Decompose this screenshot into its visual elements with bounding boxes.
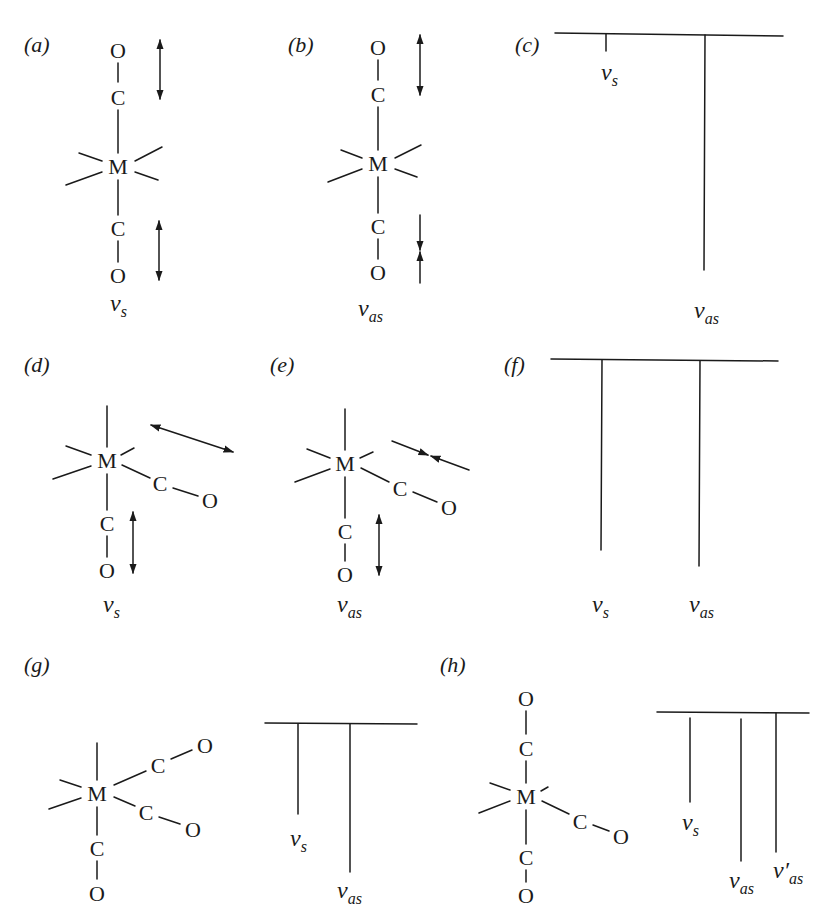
- atom-carbon: C: [519, 845, 534, 870]
- band-nu-as: [704, 35, 705, 270]
- mode-label-nu-as: νas: [337, 591, 362, 621]
- band-nu-as: [699, 361, 700, 566]
- atom-oxygen: O: [337, 562, 353, 587]
- mode-label-nu-s: νs: [103, 591, 120, 621]
- bond-co: [593, 825, 609, 831]
- arrow-converging-icon: [431, 456, 469, 470]
- panel-b: (b) O C M C O νas: [288, 32, 421, 325]
- band-label-nu-s: νs: [592, 591, 609, 621]
- atom-carbon: C: [111, 85, 126, 110]
- atom-oxygen: O: [370, 260, 386, 285]
- bond-ligand: [135, 172, 158, 180]
- bond-ligand: [79, 153, 102, 161]
- atom-metal: M: [87, 781, 107, 806]
- panel-label-f: (f): [504, 352, 525, 377]
- panel-g-spectrum: νs νas: [265, 723, 417, 907]
- band-label-nu-s: νs: [601, 59, 618, 89]
- atom-carbon: C: [371, 82, 386, 107]
- bond-mc: [122, 465, 150, 478]
- bond-mc: [114, 771, 146, 785]
- atom-metal: M: [335, 451, 355, 476]
- bond-ligand: [341, 150, 362, 158]
- atom-metal: M: [368, 151, 388, 176]
- atom-oxygen: O: [518, 883, 534, 908]
- atom-carbon: C: [338, 519, 353, 544]
- panel-label-g: (g): [24, 652, 50, 677]
- atom-carbon: C: [153, 471, 168, 496]
- atom-carbon: C: [139, 800, 154, 825]
- bond-ligand: [60, 780, 81, 787]
- atom-carbon: C: [111, 216, 126, 241]
- atom-carbon: C: [393, 476, 408, 501]
- atom-oxygen: O: [99, 558, 115, 583]
- double-arrow-icon: [151, 425, 233, 452]
- spectrum-baseline: [657, 712, 809, 713]
- panel-label-b: (b): [288, 32, 314, 57]
- bond-mc: [114, 797, 135, 806]
- panel-a: (a) O C M C O νs: [24, 32, 162, 320]
- atom-carbon: C: [90, 836, 105, 861]
- atom-carbon: C: [100, 511, 115, 536]
- panel-label-a: (a): [24, 32, 50, 57]
- atom-oxygen: O: [518, 686, 534, 711]
- band-nu-s: [601, 360, 602, 550]
- atom-oxygen: O: [185, 817, 201, 842]
- atom-oxygen: O: [110, 38, 126, 63]
- atom-oxygen: O: [89, 881, 105, 906]
- panel-g: (g) M C O C O C O νs νas: [24, 652, 417, 907]
- bond-ligand: [135, 147, 162, 161]
- bond-ligand: [121, 448, 134, 455]
- bond-ligand: [328, 169, 362, 182]
- panel-label-d: (d): [24, 352, 50, 377]
- mode-label-nu-as: νas: [358, 295, 383, 325]
- atom-oxygen: O: [370, 35, 386, 60]
- bond-mc: [542, 801, 569, 814]
- bond-ligand: [307, 449, 330, 458]
- bond-co: [173, 488, 198, 496]
- bond-ligand: [395, 145, 421, 158]
- band-label-nu-s: νs: [682, 809, 699, 839]
- bond-ligand: [395, 169, 417, 177]
- bond-ligand: [66, 172, 102, 185]
- molecule-cis-dicarbonyl-e: M C O C O: [295, 409, 457, 587]
- arrow-converging-icon: [392, 441, 428, 455]
- panel-label-e: (e): [270, 352, 294, 377]
- band-label-nu-as: νas: [689, 591, 714, 621]
- panel-h: (h) O C M C O C O νs νas ν′as: [440, 652, 809, 908]
- atom-carbon: C: [573, 809, 588, 834]
- bond-co: [159, 817, 180, 824]
- band-label-nu-s: νs: [290, 825, 307, 855]
- band-label-nu-as-prime: ν′as: [773, 857, 803, 887]
- figure-canvas: (a) O C M C O νs (b) O C M: [0, 0, 831, 924]
- bond-co: [171, 750, 192, 759]
- mode-label-nu-s: νs: [110, 290, 127, 320]
- atom-metal: M: [108, 154, 128, 179]
- panel-f-spectrum: (f) νs νas: [504, 352, 778, 621]
- molecule-fac-tricarbonyl: M C O C O C O: [49, 733, 213, 906]
- bond-ligand: [49, 798, 81, 809]
- molecule-trans-dicarbonyl-a: O C M C O: [66, 38, 162, 288]
- spectrum-baseline: [555, 33, 783, 36]
- atom-oxygen: O: [197, 733, 213, 758]
- atom-carbon: C: [519, 736, 534, 761]
- panel-label-c: (c): [515, 32, 539, 57]
- atom-oxygen: O: [202, 488, 218, 513]
- bond-ligand: [66, 446, 91, 455]
- atom-oxygen: O: [110, 263, 126, 288]
- molecule-cis-dicarbonyl-d: M C O C O: [53, 406, 218, 583]
- bond-ligand: [541, 787, 548, 791]
- panel-c-spectrum: (c) νs νas: [515, 32, 783, 327]
- atom-oxygen: O: [613, 824, 629, 849]
- atom-metal: M: [97, 448, 117, 473]
- bond-ligand: [479, 801, 510, 813]
- bond-ligand: [490, 783, 510, 790]
- panel-label-h: (h): [440, 652, 466, 677]
- band-label-nu-as: νas: [729, 867, 754, 897]
- atom-oxygen: O: [441, 495, 457, 520]
- band-label-nu-as: νas: [694, 297, 719, 327]
- atom-carbon: C: [151, 753, 166, 778]
- bond-ligand: [53, 466, 91, 479]
- atom-carbon: C: [371, 214, 386, 239]
- spectrum-baseline: [265, 723, 417, 724]
- bond-co: [413, 492, 437, 502]
